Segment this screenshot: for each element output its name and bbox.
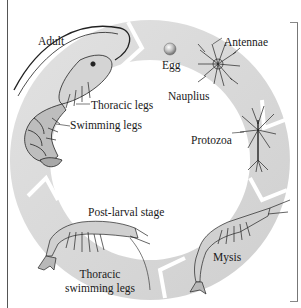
label-nauplius: Nauplius (168, 91, 210, 103)
label-protozoa: Protozoa (191, 135, 232, 147)
shrimp-life-cycle-diagram: Adult Egg Antennae Nauplius Protozoa Tho… (0, 0, 301, 308)
label-egg: Egg (162, 60, 181, 72)
label-swimming-legs: Swimming legs (70, 120, 142, 132)
label-post-larval-stage: Post-larval stage (88, 207, 164, 219)
label-thoracic-legs: Thoracic legs (91, 100, 153, 112)
label-thoracic-swimming-legs-line1: Thoracic (58, 269, 142, 281)
egg-illustration (164, 43, 176, 55)
label-adult: Adult (38, 36, 64, 48)
label-mysis: Mysis (213, 252, 241, 264)
label-antennae: Antennae (224, 37, 268, 49)
label-thoracic-swimming-legs-line2: swimming legs (58, 283, 142, 295)
